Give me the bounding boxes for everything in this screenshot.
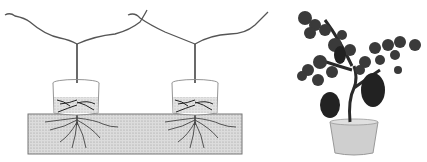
layering-diagram [0,0,280,162]
leaves [297,11,421,86]
grape-clusters [320,46,385,118]
pot [330,122,378,155]
layering-illustration [0,0,280,162]
grapevine-bonsai-image [280,0,427,162]
potted-grapevine-photo [280,0,427,162]
